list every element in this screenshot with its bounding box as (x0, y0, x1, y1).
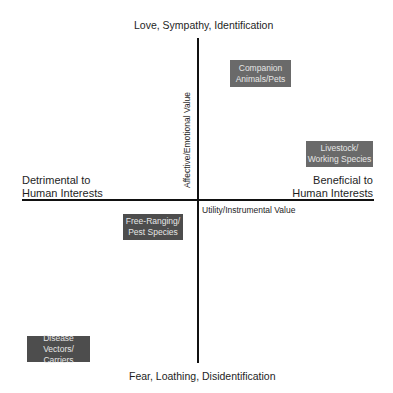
right-pole-label: Beneficial to Human Interests (292, 174, 373, 200)
category-companion-animals: Companion Animals/Pets (230, 60, 291, 87)
category-free-ranging: Free-Ranging/ Pest Species (123, 214, 183, 240)
category-disease-vectors: Disease Vectors/ Carriers (27, 336, 90, 362)
top-pole-label: Love, Sympathy, Identification (134, 19, 273, 31)
bottom-pole-label: Fear, Loathing, Disidentification (129, 370, 276, 382)
right-pole-line-2: Human Interests (292, 187, 373, 200)
left-pole-line-1: Detrimental to (22, 174, 103, 187)
left-pole-line-2: Human Interests (22, 187, 103, 200)
left-pole-label: Detrimental to Human Interests (22, 174, 103, 200)
category-livestock: Livestock/ Working Species (306, 141, 373, 167)
vertical-axis-label: Affective/Emotional Value (182, 92, 192, 188)
horizontal-axis-label: Utility/Instrumental Value (202, 205, 295, 215)
right-pole-line-1: Beneficial to (292, 174, 373, 187)
